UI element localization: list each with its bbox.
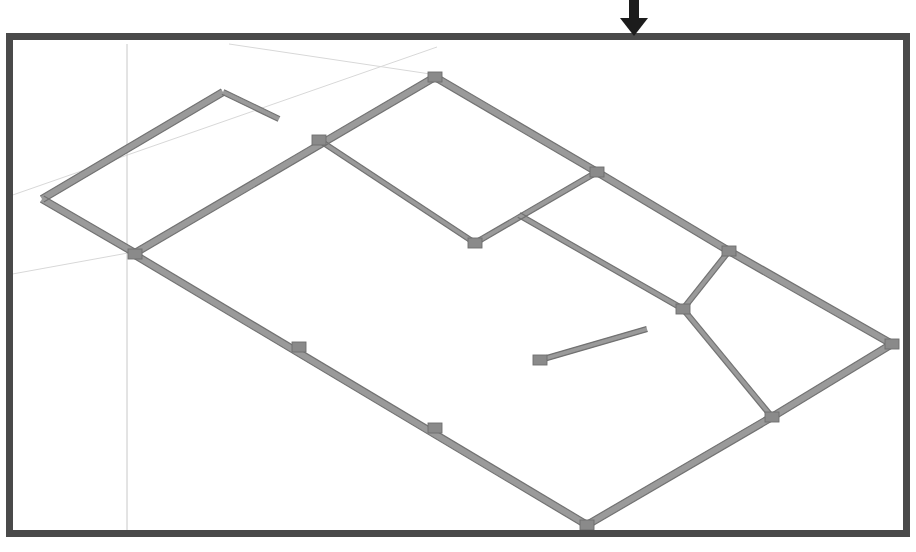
junction-marker-group[interactable] xyxy=(128,72,899,530)
wall-exterior-north-east-upper[interactable] xyxy=(435,77,597,172)
wall-interior-cross-edge-a xyxy=(685,253,731,311)
wall-exterior-north-east-upper-edge-a xyxy=(433,80,595,175)
wall-junction-marker[interactable] xyxy=(676,304,690,314)
floor-plan-view: Floor Plan xyxy=(0,0,916,552)
wall-exterior-south-east-edge-a xyxy=(770,341,890,414)
wall-exterior-east-upper[interactable] xyxy=(597,172,729,251)
reference-plane-top-sliver xyxy=(229,44,437,75)
wall-stub-north-edge-a xyxy=(222,94,278,121)
wall-interior-stub-short-edge-a xyxy=(539,327,646,358)
crop-region-frame[interactable] xyxy=(6,33,910,537)
wall-exterior-south-edge-a xyxy=(585,414,770,522)
wall-stub-north-edge-b xyxy=(224,90,280,117)
wall-exterior-south-east[interactable] xyxy=(772,344,892,417)
wall-exterior-south-west[interactable] xyxy=(135,255,587,525)
wall-exterior-south-edge-b xyxy=(589,420,774,528)
wall-interior-spine-upper-edge-a xyxy=(518,217,682,311)
wall-junction-marker[interactable] xyxy=(428,72,442,82)
wall-exterior-west-edge-a xyxy=(40,202,133,256)
wall-interior-spine-lower[interactable] xyxy=(683,309,772,417)
wall-interior-spine-upper-edge-b xyxy=(520,213,684,307)
wall-junction-marker[interactable] xyxy=(885,339,899,349)
wall-junction-marker[interactable] xyxy=(312,135,326,145)
wall-junction-marker[interactable] xyxy=(722,246,736,256)
wall-exterior-west-edge-b xyxy=(44,196,137,250)
crop-region-drag-arrow[interactable] xyxy=(620,0,648,36)
wall-exterior-east-lower-edge-a xyxy=(727,254,890,347)
wall-interior-room-east[interactable] xyxy=(475,172,597,243)
wall-junction-marker[interactable] xyxy=(468,238,482,248)
wall-interior-room-north[interactable] xyxy=(319,140,475,243)
wall-interior-stub-short[interactable] xyxy=(540,329,647,360)
wall-interior-cross-edge-b xyxy=(681,249,727,307)
wall-interior-cross[interactable] xyxy=(683,251,729,309)
wall-interior-room-north-edge-b xyxy=(320,138,476,241)
wall-exterior-north-east[interactable] xyxy=(135,77,435,253)
reference-plane-diagonal-lower xyxy=(7,251,139,275)
wall-junction-marker[interactable] xyxy=(765,412,779,422)
wall-interior-spine-lower-edge-b xyxy=(685,307,774,415)
wall-interior-spine-lower-edge-a xyxy=(681,311,770,419)
wall-interior-room-east-edge-b xyxy=(474,170,596,241)
wall-exterior-south-west-edge-a xyxy=(137,252,589,522)
wall-exterior-south-west-edge-b xyxy=(133,258,585,528)
wall-exterior-north-east-upper-edge-b xyxy=(437,74,599,169)
wall-exterior-north-west-edge-a xyxy=(44,95,225,202)
wall-junction-marker[interactable] xyxy=(428,423,442,433)
wall-interior-spine-upper[interactable] xyxy=(519,215,683,309)
wall-exterior-east-upper-edge-a xyxy=(595,175,727,254)
wall-exterior-south[interactable] xyxy=(587,417,772,525)
plan-drawing-canvas[interactable] xyxy=(7,33,910,537)
wall-group-edges xyxy=(40,74,894,528)
wall-junction-marker[interactable] xyxy=(590,167,604,177)
wall-junction-marker[interactable] xyxy=(128,249,142,259)
wall-exterior-south-east-edge-b xyxy=(774,347,894,420)
wall-exterior-north-east-edge-a xyxy=(137,80,437,256)
arrow-shaft xyxy=(629,0,639,20)
wall-exterior-west[interactable] xyxy=(42,199,135,253)
wall-exterior-east-upper-edge-b xyxy=(599,169,731,248)
wall-interior-stub-short-edge-b xyxy=(541,331,648,362)
wall-exterior-north-west-edge-b xyxy=(40,89,221,196)
wall-interior-room-east-edge-a xyxy=(476,174,598,245)
wall-interior-room-north-edge-a xyxy=(318,142,474,245)
wall-endpoint-marker[interactable] xyxy=(533,355,547,365)
wall-junction-marker[interactable] xyxy=(292,342,306,352)
wall-exterior-north-west[interactable] xyxy=(42,92,223,199)
wall-exterior-east-lower[interactable] xyxy=(729,251,892,344)
wall-junction-marker[interactable] xyxy=(580,520,594,530)
reference-plane-group xyxy=(7,44,627,537)
wall-exterior-east-lower-edge-b xyxy=(731,248,894,341)
